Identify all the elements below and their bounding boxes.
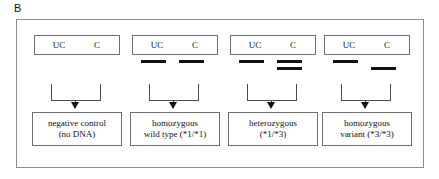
- gel-lane-box: UC C: [132, 35, 218, 55]
- gel-band: [141, 60, 166, 63]
- bracket-crossbar-icon: [341, 100, 391, 101]
- result-label-line2: wild type (*1/*1): [144, 129, 207, 140]
- arrow-down-icon: [169, 102, 177, 109]
- bracket-crossbar-icon: [51, 100, 101, 101]
- bracket-arrow-connector: [51, 84, 101, 108]
- figure-outer-frame: UC C negative control (no DNA) UC C: [16, 19, 424, 168]
- gel-lane-box: UC C: [324, 35, 410, 55]
- column-homozygous-variant: UC C homozygous variant (*3/*3): [321, 20, 413, 169]
- bracket-leg-right-icon: [390, 84, 391, 101]
- bracket-crossbar-icon: [247, 100, 297, 101]
- lane-label-c: C: [84, 39, 110, 52]
- bracket-leg-right-icon: [100, 84, 101, 101]
- bracket-leg-right-icon: [296, 84, 297, 101]
- column-homozygous-wild-type: UC C homozygous wild type (*1/*1): [129, 20, 221, 169]
- gel-band: [371, 67, 396, 70]
- lane-label-uc: UC: [336, 39, 362, 52]
- bracket-leg-left-icon: [341, 84, 342, 101]
- gel-band: [333, 60, 358, 63]
- result-box: heterozygous (*1/*3): [228, 112, 318, 146]
- result-label-line2: variant (*3/*3): [340, 129, 394, 140]
- result-label-line1: heterozygous: [249, 118, 297, 129]
- result-box: homozygous variant (*3/*3): [322, 112, 412, 146]
- lane-label-uc: UC: [46, 39, 72, 52]
- bracket-leg-right-icon: [198, 84, 199, 101]
- bracket-leg-left-icon: [247, 84, 248, 101]
- result-label-line1: homozygous: [344, 118, 390, 129]
- column-negative-control: UC C negative control (no DNA): [31, 20, 123, 169]
- gel-band: [277, 60, 302, 63]
- arrow-down-icon: [267, 102, 275, 109]
- bracket-leg-left-icon: [149, 84, 150, 101]
- result-box: negative control (no DNA): [32, 112, 122, 146]
- result-label-line2: (no DNA): [59, 129, 96, 140]
- gel-band: [239, 60, 264, 63]
- bracket-leg-left-icon: [51, 84, 52, 101]
- arrow-down-icon: [71, 102, 79, 109]
- lane-label-c: C: [280, 39, 306, 52]
- panel-letter: B: [14, 2, 22, 15]
- bracket-arrow-connector: [247, 84, 297, 108]
- bracket-arrow-connector: [149, 84, 199, 108]
- gel-band: [277, 67, 302, 70]
- result-box: homozygous wild type (*1/*1): [130, 112, 220, 146]
- figure-panel-b: B UC C negative control (no DNA): [0, 0, 439, 179]
- column-heterozygous: UC C heterozygous (*1/*3): [227, 20, 319, 169]
- arrow-down-icon: [361, 102, 369, 109]
- result-label-line1: homozygous: [152, 118, 198, 129]
- result-label-line1: negative control: [48, 118, 106, 129]
- lane-label-c: C: [182, 39, 208, 52]
- lane-label-uc: UC: [242, 39, 268, 52]
- gel-lane-box: UC C: [34, 35, 120, 55]
- bracket-arrow-connector: [341, 84, 391, 108]
- gel-band: [179, 60, 204, 63]
- bracket-crossbar-icon: [149, 100, 199, 101]
- result-label-line2: (*1/*3): [260, 129, 287, 140]
- lane-label-c: C: [374, 39, 400, 52]
- lane-label-uc: UC: [144, 39, 170, 52]
- gel-lane-box: UC C: [230, 35, 316, 55]
